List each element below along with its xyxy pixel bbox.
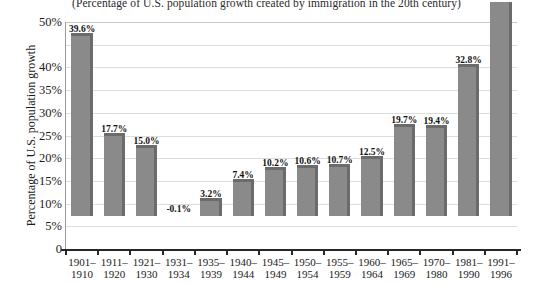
x-axis-tick-label: 1935–1939 (195, 256, 227, 280)
x-axis-tick-label-line: 1935– (195, 256, 227, 268)
x-axis-tick (387, 251, 389, 255)
x-axis-tick-label-line: 1970– (420, 256, 452, 268)
y-axis-tick-label: 20% (4, 151, 62, 166)
bar (233, 182, 254, 216)
x-axis-tick (162, 251, 164, 255)
x-axis-tick-label-line: 1901– (66, 256, 98, 268)
x-axis-tick-label-line: 1980 (420, 268, 452, 280)
x-axis-tick (65, 251, 67, 255)
x-axis-tick-label: 1911–1920 (98, 256, 130, 280)
x-axis-tick (291, 251, 293, 255)
x-axis-tick-label: 1945–1949 (259, 256, 291, 280)
x-axis-tick-label-line: 1950– (292, 256, 324, 268)
immigration-population-growth-bar-chart: (Percentage of U.S. population growth cr… (0, 0, 533, 284)
x-axis-tick (419, 251, 421, 255)
bar (136, 148, 157, 216)
bar-slot: 7.4% (227, 0, 259, 216)
bar (458, 67, 479, 216)
bar-value-label: 7.4% (232, 170, 253, 180)
x-axis-tick-label-line: 1934 (163, 268, 195, 280)
bar-slot: 10.2% (259, 0, 291, 216)
bar-slot: 3.2% (195, 0, 227, 216)
bar-value-label: 15.0% (133, 136, 159, 146)
x-axis-tick-label-line: 1955– (324, 256, 356, 268)
x-axis-tick-label: 1991–1996 (485, 256, 517, 280)
bar-slot: 39.6% (66, 0, 98, 216)
x-axis-tick-label: 1931–1934 (163, 256, 195, 280)
bar-value-label: 39.6% (69, 24, 95, 34)
x-axis-tick (97, 251, 99, 255)
x-axis-tick-label: 1921–1930 (130, 256, 162, 280)
bar-series: 39.6%17.7%15.0%-0.1%3.2%7.4%10.2%10.6%10… (66, 0, 517, 251)
x-axis-tick-label-line: 1969 (388, 268, 420, 280)
bar (297, 168, 318, 216)
x-axis-tick-label-line: 1940– (227, 256, 259, 268)
x-axis-tick-label: 1970–1980 (420, 256, 452, 280)
bar (71, 36, 92, 216)
x-axis-tick-label-line: 1910 (66, 268, 98, 280)
x-axis-tick-label: 1901–1910 (66, 256, 98, 280)
x-axis-tick-label-line: 1996 (485, 268, 517, 280)
x-axis-tick (129, 251, 131, 255)
bar (200, 201, 221, 216)
bar-value-label: 10.6% (295, 156, 321, 166)
x-axis-tick-label-line: 1911– (98, 256, 130, 268)
bar-slot: 10.7% (324, 0, 356, 216)
y-axis-tick-label: 5% (4, 219, 62, 234)
bar (490, 2, 511, 216)
x-axis-tick-label-line: 1939 (195, 268, 227, 280)
x-axis-tick-label: 1960–1964 (356, 256, 388, 280)
y-axis-tick-label: 0 (4, 242, 62, 257)
x-axis-tick-label-line: 1930 (130, 268, 162, 280)
bar-slot: 19.7% (388, 0, 420, 216)
x-axis-tick-label-line: 1949 (259, 268, 291, 280)
x-axis-tick-label: 1940–1944 (227, 256, 259, 280)
bar-slot: 32.8% (453, 0, 485, 216)
bar-value-label: 32.8% (456, 55, 482, 65)
bar-value-label: 10.7% (327, 155, 353, 165)
y-axis-tick-label: 15% (4, 173, 62, 188)
bar (329, 167, 350, 216)
bar-value-label: -0.1% (166, 204, 191, 214)
x-axis-tick (323, 251, 325, 255)
x-axis-tick-label-line: 1990 (453, 268, 485, 280)
x-axis-tick-label: 1950–1954 (292, 256, 324, 280)
y-axis-tick-labels: 05%10%15%20%25%30%35%40%50% (0, 0, 62, 284)
bar-value-label: 12.5% (359, 147, 385, 157)
x-axis-tick-label-line: 1945– (259, 256, 291, 268)
x-axis-tick (194, 251, 196, 255)
y-axis-tick-label: 35% (4, 83, 62, 98)
x-axis-tick-label-line: 1964 (356, 268, 388, 280)
bar-slot: -0.1% (163, 0, 195, 216)
y-axis-tick-label: 30% (4, 105, 62, 120)
x-axis-tick-label: 1955–1959 (324, 256, 356, 280)
bar-slot: 10.6% (292, 0, 324, 216)
x-axis-tick-label-line: 1920 (98, 268, 130, 280)
bar-value-label: 19.4% (423, 116, 449, 126)
x-axis-tick-label: 1981–1990 (453, 256, 485, 280)
bar (394, 127, 415, 216)
bar-slot: 12.5% (356, 0, 388, 216)
bar (361, 159, 382, 216)
x-axis-tick-label-line: 1921– (130, 256, 162, 268)
bar-slot: 17.7% (98, 0, 130, 216)
x-axis-tick-label-line: 1991– (485, 256, 517, 268)
x-axis-tick (452, 251, 454, 255)
bar-value-label: 17.7% (101, 124, 127, 134)
x-axis-tick-label-line: 1959 (324, 268, 356, 280)
bar (426, 128, 447, 216)
x-axis-tick-label-line: 1981– (453, 256, 485, 268)
y-axis-tick-label: 25% (4, 128, 62, 143)
x-axis-tick-label-line: 1965– (388, 256, 420, 268)
y-axis-tick-label: 10% (4, 196, 62, 211)
x-axis-tick-label: 1965–1969 (388, 256, 420, 280)
bar-slot: 19.4% (420, 0, 452, 216)
x-axis-tick (516, 251, 518, 255)
bar (104, 136, 125, 216)
bar-slot: 47.1% (485, 0, 517, 216)
x-axis-tick (355, 251, 357, 255)
bar-value-label: 3.2% (200, 189, 221, 199)
y-axis-tick-label: 50% (4, 15, 62, 30)
bar-slot: 15.0% (130, 0, 162, 216)
x-axis-tick-label-line: 1931– (163, 256, 195, 268)
